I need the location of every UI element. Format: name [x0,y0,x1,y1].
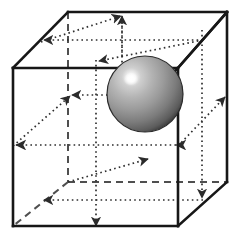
edge-diagonal-top-left [13,12,68,68]
sphere-body [107,56,183,132]
sphere-group [107,56,183,132]
cube-front-corner-overlay [176,12,227,70]
cube-sphere-diagram [0,0,239,242]
figure-container: Cube with inscribed shaded sphere and di… [0,0,239,242]
arrow-mid-left-diagonal [13,96,70,146]
arrow-bottom-face-diagonal [68,159,148,182]
sphere-specular-highlight [124,73,139,86]
hidden-edge-back-bottom-left-diagonal [13,182,68,226]
edge-diagonal-top-right-overlay [176,12,227,70]
